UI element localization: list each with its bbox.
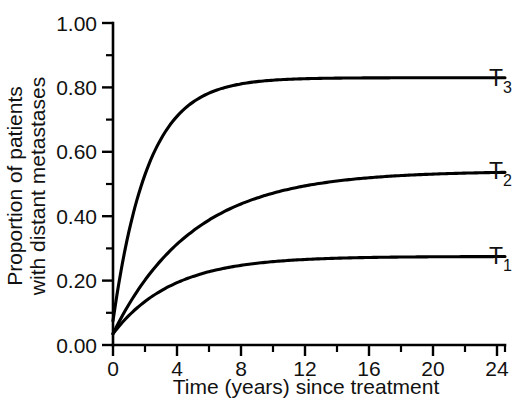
y-tick-label: 0.80 [56, 76, 97, 99]
y-tick-label: 0.40 [56, 205, 97, 228]
y-axis-title-line1: Proportion of patients [3, 86, 26, 286]
y-axis-title: Proportion of patients with distant meta… [3, 77, 49, 296]
y-tick-label: 1.00 [56, 12, 97, 35]
y-axis-title-line2: with distant metastases [26, 77, 49, 296]
line-chart: 0.000.200.400.600.801.00 04812162024 T3T… [0, 0, 518, 400]
x-tick-label: 0 [107, 357, 119, 380]
y-tick-label: 0.60 [56, 140, 97, 163]
y-tick-label: 0.20 [56, 269, 97, 292]
y-tick-label: 0.00 [56, 334, 97, 357]
x-tick-label: 24 [485, 357, 509, 380]
x-axis-title: Time (years) since treatment [173, 375, 440, 398]
chart-page: 0.000.200.400.600.801.00 04812162024 T3T… [0, 0, 518, 400]
